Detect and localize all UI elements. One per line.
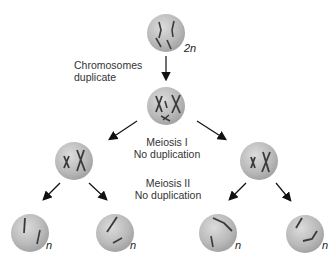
cell-haploid-3 — [199, 214, 237, 252]
label-line: Meiosis I — [126, 136, 208, 148]
label-meiosis-2: Meiosis II No duplication — [127, 177, 209, 201]
cell-duplicated — [147, 87, 185, 125]
ploidy-label-n: n — [235, 239, 241, 251]
label-line: duplicate — [74, 71, 142, 83]
cell-haploid-4 — [286, 215, 324, 253]
cell-diploid — [147, 14, 185, 52]
cell-meiosis1-right — [240, 142, 278, 180]
cell-haploid-2 — [96, 214, 134, 252]
label-line: Meiosis II — [127, 177, 209, 189]
cell-meiosis1-left — [55, 142, 93, 180]
label-chromosomes-duplicate: Chromosomes duplicate — [74, 59, 142, 83]
ploidy-label-2n: 2n — [184, 42, 196, 54]
cell-haploid-1 — [11, 214, 49, 252]
meiosis-diagram — [0, 0, 336, 258]
label-line: Chromosomes — [74, 59, 142, 71]
label-line: No duplication — [126, 148, 208, 160]
ploidy-label-n: n — [322, 239, 328, 251]
ploidy-label-n: n — [46, 239, 52, 251]
label-meiosis-1: Meiosis I No duplication — [126, 136, 208, 160]
ploidy-label-n: n — [130, 239, 136, 251]
label-line: No duplication — [127, 189, 209, 201]
